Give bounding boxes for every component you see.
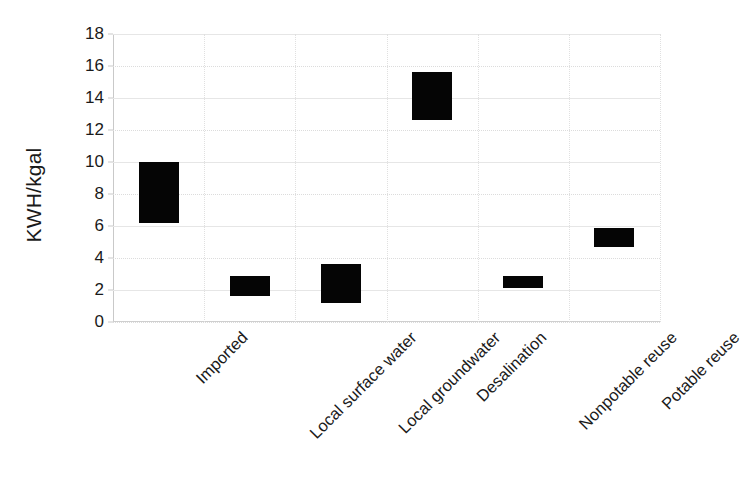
gridline-vertical [387,34,388,322]
y-axis-tick-label: 2 [95,280,104,300]
y-axis-tick-label: 6 [95,216,104,236]
y-axis-tick-label: 4 [95,248,104,268]
gridline-horizontal [113,322,660,323]
y-axis-tick-mark [108,322,113,323]
x-axis-tick-label: Nonpotable reuse [575,328,681,434]
y-axis-tick-label: 8 [95,184,104,204]
gridline-vertical [569,34,570,322]
y-axis-line [113,34,114,322]
y-axis-tick-label: 16 [85,56,104,76]
y-axis-title: KWH/kgal [22,105,46,285]
bar-nonpotable-reuse [503,276,543,289]
y-axis-tick-mark [108,290,113,291]
y-axis-tick-label: 0 [95,312,104,332]
y-axis-tick-mark [108,34,113,35]
y-axis-tick-mark [108,162,113,163]
plot-frame: 024681012141618 [113,34,660,322]
bar-local-surface-water [230,276,270,296]
y-axis-tick-label: 10 [85,152,104,172]
y-axis-tick-mark [108,226,113,227]
y-axis-tick-mark [108,258,113,259]
y-axis-tick-label: 12 [85,120,104,140]
bar-potable-reuse [594,228,634,247]
y-axis-tick-label: 14 [85,88,104,108]
gridline-vertical [478,34,479,322]
plot-area: 024681012141618 [113,34,660,322]
gridline-vertical [660,34,661,322]
y-axis-tick-mark [108,194,113,195]
y-axis-tick-mark [108,130,113,131]
bar-desalination [412,72,452,120]
bar-local-groundwater [321,264,361,302]
gridline-vertical [204,34,205,322]
y-axis-tick-label: 18 [85,24,104,44]
gridline-vertical [295,34,296,322]
bar-imported [139,162,179,223]
y-axis-tick-mark [108,98,113,99]
y-axis-tick-mark [108,66,113,67]
x-axis-tick-label: Imported [192,328,251,387]
